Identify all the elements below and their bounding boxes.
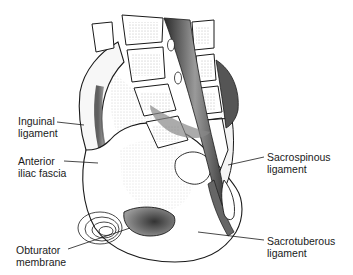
label-line: Sacrospinous [267,151,331,163]
anatomy-figure: Inguinal ligament Anterior iliac fascia … [0,0,353,275]
label-line: membrane [16,256,66,268]
label-line: Obturator [16,244,66,256]
label-anterior-iliac-fascia: Anterior iliac fascia [18,155,66,179]
label-sacrospinous-ligament: Sacrospinous ligament [267,151,331,175]
label-line: ligament [267,163,331,175]
label-line: Anterior [18,155,66,167]
label-inguinal-ligament: Inguinal ligament [18,115,58,139]
label-sacrotuberous-ligament: Sacrotuberous ligament [267,235,335,259]
label-line: ligament [18,127,58,139]
label-line: iliac fascia [18,167,66,179]
label-line: ligament [267,247,335,259]
label-line: Inguinal [18,115,58,127]
label-obturator-membrane: Obturator membrane [16,244,66,268]
label-line: Sacrotuberous [267,235,335,247]
